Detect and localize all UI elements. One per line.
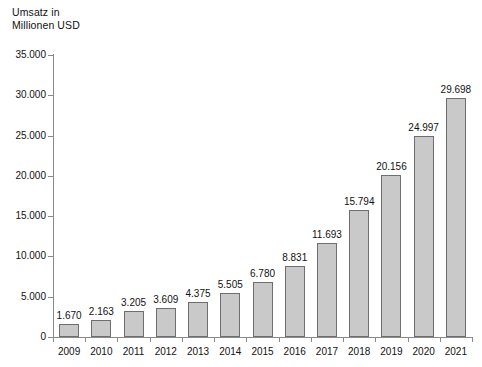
- bar: 3.609: [156, 308, 176, 337]
- bar-value-label: 24.997: [408, 122, 439, 134]
- x-axis-label: 2020: [413, 346, 435, 358]
- bar-value-label: 15.794: [344, 196, 375, 208]
- y-axis-tick-label: 25.000: [15, 129, 46, 142]
- x-axis-label: 2018: [348, 346, 370, 358]
- bar-value-label: 1.670: [57, 310, 82, 322]
- bar: 15.794: [349, 210, 369, 337]
- bar: 11.693: [317, 243, 337, 337]
- axis-title-line-1: Umsatz in: [12, 6, 60, 18]
- bar-value-label: 20.156: [376, 161, 407, 173]
- bar: 29.698: [446, 98, 466, 337]
- bar-value-label: 6.780: [250, 268, 275, 280]
- y-axis-tick-label: 5.000: [21, 290, 46, 303]
- x-axis-label: 2017: [316, 346, 338, 358]
- y-axis-tick-label: 0: [40, 330, 46, 343]
- bar-value-label: 2.163: [89, 306, 114, 318]
- x-axis-label: 2009: [58, 346, 80, 358]
- axis-title-line-2: Millionen USD: [12, 19, 80, 31]
- x-axis-label: 2012: [155, 346, 177, 358]
- bar: 6.780: [253, 282, 273, 337]
- y-axis-tick-label: 35.000: [15, 48, 46, 61]
- bar: 1.670: [59, 324, 79, 337]
- bar: 8.831: [285, 266, 305, 337]
- bar-value-label: 8.831: [282, 252, 307, 264]
- bar-series: 1.6702.1633.2053.6094.3755.5056.7808.831…: [53, 55, 472, 337]
- chart-axis-title: Umsatz inMillionen USD: [12, 6, 80, 32]
- bar-value-label: 3.609: [153, 294, 178, 306]
- bar: 2.163: [91, 320, 111, 337]
- x-axis-label: 2021: [445, 346, 467, 358]
- x-axis-label: 2011: [123, 346, 145, 358]
- x-axis-label: 2010: [90, 346, 112, 358]
- y-axis-tick-label: 10.000: [15, 249, 46, 262]
- bar-value-label: 4.375: [186, 288, 211, 300]
- bar: 3.205: [124, 311, 144, 337]
- y-axis-tick-label: 30.000: [15, 88, 46, 101]
- bar-value-label: 5.505: [218, 279, 243, 291]
- bar: 20.156: [381, 175, 401, 337]
- bar-value-label: 3.205: [121, 297, 146, 309]
- bar: 5.505: [220, 293, 240, 337]
- x-axis-label: 2013: [187, 346, 209, 358]
- x-axis-label: 2016: [284, 346, 306, 358]
- x-axis-label: 2014: [219, 346, 241, 358]
- bar-chart: Umsatz inMillionen USD 05.00010.00015.00…: [0, 0, 482, 367]
- bar: 24.997: [414, 136, 434, 337]
- x-axis-tick-mark: [472, 337, 473, 342]
- bar: 4.375: [188, 302, 208, 337]
- x-axis-labels: 2009201020112012201320142015201620172018…: [53, 337, 472, 361]
- bar-value-label: 11.693: [312, 229, 342, 241]
- x-axis-label: 2015: [251, 346, 273, 358]
- x-axis-label: 2019: [380, 346, 402, 358]
- y-axis-tick-label: 20.000: [15, 169, 46, 182]
- y-axis-tick-label: 15.000: [15, 209, 46, 222]
- bar-value-label: 29.698: [441, 84, 472, 96]
